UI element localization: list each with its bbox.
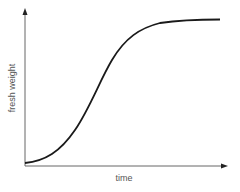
y-axis-label: fresh weight <box>7 63 17 112</box>
x-axis-label: time <box>115 173 132 183</box>
y-axis-arrow-icon <box>23 8 28 15</box>
growth-curve <box>25 20 220 164</box>
x-axis-arrow-icon <box>221 164 228 169</box>
growth-chart: time fresh weight <box>0 0 240 192</box>
